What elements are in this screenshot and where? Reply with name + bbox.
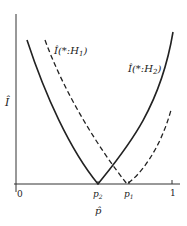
y-axis-label: Î (4, 95, 10, 109)
tick-label-p1: p1 (124, 189, 134, 200)
x-axis-label: p̂ (95, 205, 102, 216)
tick-label-p2: p2 (93, 189, 103, 200)
label-curve-h2: Î(*:H2) (127, 63, 161, 76)
tick-label-1: 1 (170, 188, 176, 198)
chart: Î(*:H1) Î(*:H2) Î 0 p2 p1 1 p̂ (0, 0, 187, 226)
curve-h1-dashed (45, 40, 171, 184)
label-curve-h1: Î(*:H1) (53, 45, 87, 58)
tick-label-0: 0 (17, 189, 23, 199)
curve-h2-solid (27, 32, 173, 184)
